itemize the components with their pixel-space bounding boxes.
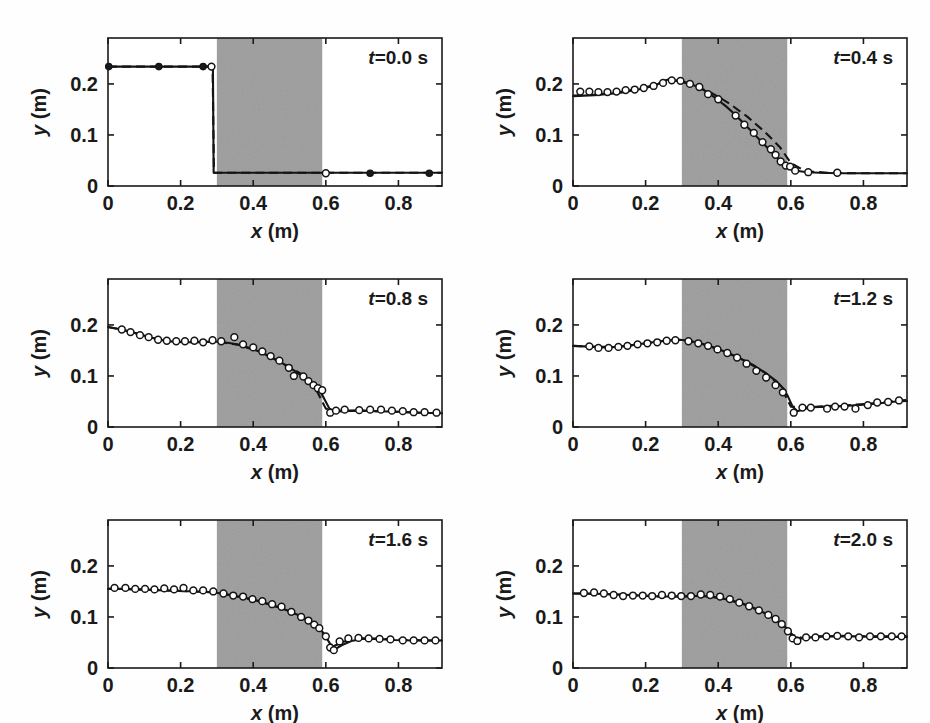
data-marker xyxy=(668,592,675,599)
x-axis-title: x (m) xyxy=(250,461,299,483)
x-tick-label: 0.4 xyxy=(704,192,733,214)
plot-panel-t04: 00.20.40.60.800.10.2x (m)y (m)t=0.4 s xyxy=(465,0,930,241)
data-marker xyxy=(269,601,276,608)
data-marker xyxy=(367,406,374,413)
y-tick-label: 0 xyxy=(87,416,98,438)
data-marker xyxy=(341,406,348,413)
data-marker xyxy=(432,637,439,644)
x-tick-label: 0.2 xyxy=(167,674,195,696)
x-tick-label: 0.6 xyxy=(777,433,805,455)
data-marker xyxy=(399,408,406,415)
data-marker xyxy=(624,342,631,349)
x-tick-label: 0.6 xyxy=(312,192,340,214)
data-marker xyxy=(322,633,329,640)
data-marker xyxy=(580,590,587,597)
data-marker xyxy=(122,584,129,591)
panel-t20: 00.20.40.60.800.10.2x (m)y (m)t=2.0 s xyxy=(465,482,930,723)
x-tick-label: 0.2 xyxy=(167,192,195,214)
y-tick-label: 0.2 xyxy=(535,314,563,336)
data-marker xyxy=(210,588,217,595)
x-tick-label: 0.2 xyxy=(632,433,660,455)
data-marker xyxy=(896,397,903,404)
data-marker xyxy=(649,593,656,600)
data-marker xyxy=(426,170,432,176)
y-tick-label: 0.2 xyxy=(70,314,98,336)
data-marker xyxy=(790,409,797,416)
data-marker xyxy=(812,634,819,641)
data-marker xyxy=(322,170,329,177)
x-tick-label: 0 xyxy=(567,433,578,455)
data-marker xyxy=(805,169,812,176)
data-marker xyxy=(118,326,125,333)
panel-t0: 00.20.40.60.800.10.2x (m)y (m)t=0.0 s xyxy=(0,0,465,241)
x-tick-label: 0 xyxy=(567,192,578,214)
data-marker xyxy=(660,80,667,87)
data-marker xyxy=(336,638,343,645)
data-marker xyxy=(163,337,170,344)
panel-t12: 00.20.40.60.800.10.2x (m)y (m)t=1.2 s xyxy=(465,241,930,482)
plot-panel-t16: 00.20.40.60.800.10.2x (m)y (m)t=1.6 s xyxy=(0,482,465,723)
data-marker xyxy=(367,170,373,176)
x-tick-label: 0.8 xyxy=(385,192,413,214)
data-marker xyxy=(433,409,440,416)
data-marker xyxy=(155,336,162,343)
data-marker xyxy=(772,616,779,623)
data-marker xyxy=(677,77,684,84)
data-marker xyxy=(173,338,180,345)
x-tick-label: 0 xyxy=(102,674,113,696)
x-tick-label: 0.8 xyxy=(850,192,878,214)
data-marker xyxy=(132,586,139,593)
x-tick-label: 0.8 xyxy=(850,674,878,696)
data-marker xyxy=(832,403,839,410)
data-marker xyxy=(696,84,703,91)
data-marker xyxy=(389,407,396,414)
data-marker xyxy=(639,592,646,599)
data-marker xyxy=(190,587,197,594)
data-marker xyxy=(695,340,702,347)
data-marker xyxy=(259,598,266,605)
data-marker xyxy=(171,586,178,593)
data-marker xyxy=(705,91,712,98)
data-marker xyxy=(763,374,770,381)
time-annotation: t=0.0 s xyxy=(368,47,428,68)
x-tick-label: 0.2 xyxy=(167,433,195,455)
y-tick-label: 0.1 xyxy=(535,606,563,628)
figure-container: 00.20.40.60.800.10.2x (m)y (m)t=0.0 s 00… xyxy=(0,0,930,723)
data-marker xyxy=(888,633,895,640)
data-marker xyxy=(220,590,227,597)
x-axis-title: x (m) xyxy=(715,461,764,483)
data-marker xyxy=(841,403,848,410)
data-marker xyxy=(410,637,417,644)
time-annotation: t=0.8 s xyxy=(368,288,428,309)
y-tick-label: 0.1 xyxy=(535,365,563,387)
data-marker xyxy=(421,409,428,416)
x-tick-label: 0.2 xyxy=(632,192,660,214)
data-marker xyxy=(724,350,731,357)
data-marker xyxy=(705,342,712,349)
data-marker xyxy=(759,139,766,146)
data-marker xyxy=(834,632,841,639)
x-tick-label: 0 xyxy=(102,433,113,455)
data-marker xyxy=(685,338,692,345)
data-marker xyxy=(387,636,394,643)
plot-panel-t0: 00.20.40.60.800.10.2x (m)y (m)t=0.0 s xyxy=(0,0,465,241)
data-marker xyxy=(755,607,762,614)
data-marker xyxy=(750,130,757,137)
data-marker xyxy=(807,404,814,411)
data-marker xyxy=(200,339,207,346)
plot-panel-t20: 00.20.40.60.800.10.2x (m)y (m)t=2.0 s xyxy=(465,482,930,723)
data-marker xyxy=(672,337,679,344)
data-marker xyxy=(378,406,385,413)
x-axis-title: x (m) xyxy=(250,702,299,723)
data-marker xyxy=(659,592,666,599)
data-marker xyxy=(316,625,323,632)
x-tick-label: 0.4 xyxy=(704,674,733,696)
data-marker xyxy=(230,592,237,599)
data-marker xyxy=(209,337,216,344)
data-marker xyxy=(726,596,733,603)
data-marker xyxy=(240,593,247,600)
data-marker xyxy=(200,63,206,69)
data-marker xyxy=(355,634,362,641)
x-tick-label: 0.6 xyxy=(777,192,805,214)
data-marker xyxy=(356,407,363,414)
